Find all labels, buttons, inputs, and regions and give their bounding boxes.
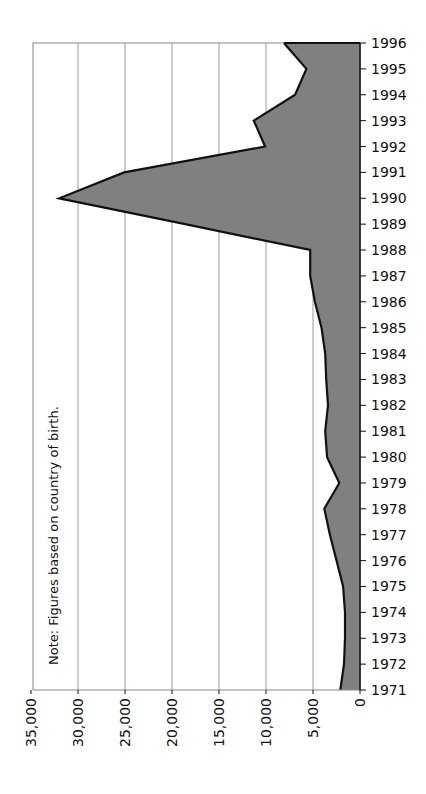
area-chart: 1971197219731974197519761977197819791980… — [0, 0, 426, 794]
year-label: 1995 — [371, 61, 407, 77]
year-label: 1980 — [371, 449, 407, 465]
year-label: 1990 — [371, 190, 407, 206]
year-label: 1975 — [371, 578, 407, 594]
year-label: 1987 — [371, 268, 407, 284]
year-label: 1996 — [371, 35, 407, 51]
year-label: 1979 — [371, 475, 407, 491]
value-label: 0 — [352, 698, 368, 707]
value-label: 30,000 — [70, 698, 86, 747]
year-label: 1984 — [371, 346, 407, 362]
year-label: 1983 — [371, 371, 407, 387]
year-label: 1972 — [371, 656, 407, 672]
value-label: 15,000 — [211, 698, 227, 747]
value-label: 10,000 — [258, 698, 274, 747]
year-axis: 1971197219731974197519761977197819791980… — [360, 35, 407, 698]
year-label: 1976 — [371, 553, 407, 569]
year-label: 1988 — [371, 242, 407, 258]
area-series — [59, 43, 360, 690]
year-label: 1971 — [371, 682, 407, 698]
year-label: 1985 — [371, 320, 407, 336]
year-label: 1982 — [371, 397, 407, 413]
value-label: 20,000 — [164, 698, 180, 747]
year-label: 1977 — [371, 527, 407, 543]
value-label: 5,000 — [305, 698, 321, 738]
chart-note: Note: Figures based on country of birth. — [46, 406, 61, 665]
year-label: 1991 — [371, 164, 407, 180]
year-label: 1992 — [371, 139, 407, 155]
year-label: 1981 — [371, 423, 407, 439]
year-label: 1974 — [371, 604, 407, 620]
value-label: 25,000 — [117, 698, 133, 747]
year-label: 1994 — [371, 87, 407, 103]
year-label: 1973 — [371, 630, 407, 646]
value-label: 35,000 — [23, 698, 39, 747]
value-axis: 05,00010,00015,00020,00025,00030,00035,0… — [23, 690, 368, 747]
year-label: 1993 — [371, 113, 407, 129]
year-label: 1989 — [371, 216, 407, 232]
year-label: 1978 — [371, 501, 407, 517]
year-label: 1986 — [371, 294, 407, 310]
